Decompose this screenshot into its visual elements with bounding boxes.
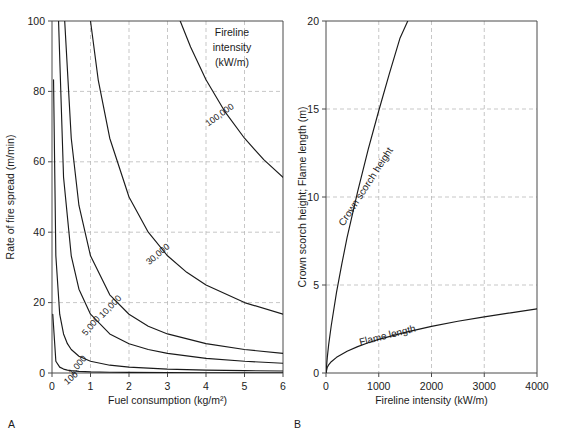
figure-container: 0123456020406080100 1001,0005,00010,0003… [0, 0, 565, 443]
y-tick-label: 40 [33, 226, 45, 238]
x-tick-label: 2 [126, 380, 132, 392]
chart-a-annotation-line-1: Fireline [215, 26, 250, 38]
y-tick-label: 15 [307, 103, 319, 115]
chart-b-svg: 0100020003000400005101520 Crown scorch h… [292, 0, 565, 443]
x-tick-label: 5 [242, 380, 248, 392]
y-tick-label: 0 [39, 367, 45, 379]
chart-panel-b: 0100020003000400005101520 Crown scorch h… [292, 0, 565, 443]
chart-a-annotation-line-2: intensity [213, 41, 252, 53]
chart-a-annotation-line-3: (kW/m) [215, 56, 249, 68]
y-tick-label: 10 [307, 191, 319, 203]
x-tick-label: 4000 [525, 380, 549, 392]
contour-label-5000: 5,000 [80, 314, 102, 338]
chart-b-ticklabels: 0100020003000400005101520 [307, 15, 549, 392]
chart-b-y-axis-title: Crown scorch height; Flame length (m) [296, 107, 308, 288]
contour-label-10000: 10,000 [97, 293, 123, 320]
x-tick-label: 6 [280, 380, 286, 392]
chart-a-ticks [48, 21, 283, 377]
curve-label-flame-length: Flame length [358, 323, 417, 348]
chart-a-svg: 0123456020406080100 1001,0005,00010,0003… [0, 0, 292, 443]
x-tick-label: 1 [88, 380, 94, 392]
chart-a-x-axis-title: Fuel consumption (kg/m²) [108, 394, 227, 406]
y-tick-label: 0 [313, 367, 319, 379]
x-tick-label: 1000 [367, 380, 391, 392]
x-tick-label: 0 [323, 380, 329, 392]
contour-label-1000: 1,000 [66, 354, 88, 378]
x-tick-label: 4 [203, 380, 209, 392]
chart-b-x-axis-title: Fireline intensity (kW/m) [375, 394, 488, 406]
x-tick-label: 0 [49, 380, 55, 392]
y-tick-label: 5 [313, 279, 319, 291]
curve-30-000 [91, 21, 284, 314]
x-tick-label: 3 [165, 380, 171, 392]
chart-b-curve-labels: Crown scorch heightFlame length [336, 145, 417, 347]
curve-crown-scorch-height [326, 21, 408, 373]
chart-a-grid [52, 21, 283, 373]
y-tick-label: 80 [33, 85, 45, 97]
contour-label-100000: 100,000 [203, 101, 235, 128]
x-tick-label: 2000 [420, 380, 444, 392]
y-tick-label: 60 [33, 155, 45, 167]
curve-5-000 [59, 21, 283, 363]
chart-panel-a: 0123456020406080100 1001,0005,00010,0003… [0, 0, 292, 443]
panel-letter-a: A [8, 418, 15, 430]
x-tick-label: 3000 [473, 380, 497, 392]
y-tick-label: 100 [27, 15, 45, 27]
panel-letter-b: B [294, 418, 301, 430]
y-tick-label: 20 [307, 15, 319, 27]
chart-a-y-axis-title: Rate of fire spread (m/min) [4, 135, 16, 260]
y-tick-label: 20 [33, 296, 45, 308]
